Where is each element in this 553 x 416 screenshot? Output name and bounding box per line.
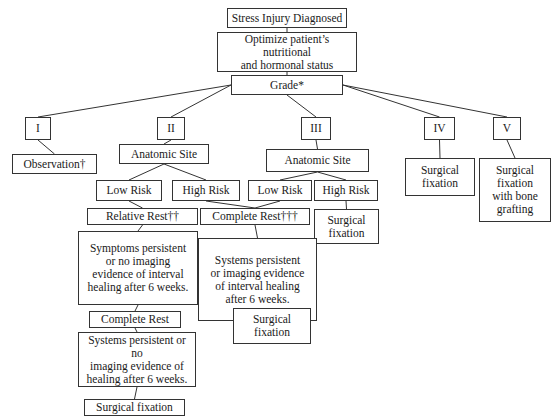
connector-anatomic_site_ii-high_risk_ii: [164, 164, 206, 180]
high-risk-ii-node: High Risk: [172, 180, 240, 201]
low-risk-ii-node: Low Risk: [96, 180, 162, 201]
surgical-fixation-bone-graft-node: Surgical fixation with bone grafting: [479, 158, 551, 222]
grade-iii-node: III: [301, 117, 331, 140]
surgical-fixation-mid-node: Surgical fixation: [233, 308, 311, 344]
connector-anatomic_site_iii-low_risk_iii: [280, 172, 318, 180]
treatment-flowchart: Stress Injury Diagnosed Optimize patient…: [0, 0, 553, 416]
connector-anatomic_site_iii-high_risk_iii: [318, 172, 347, 180]
surgical-fixation-high-risk-node: Surgical fixation: [314, 209, 379, 244]
grade-iv-node: IV: [424, 117, 455, 140]
grade-ii-node: II: [157, 117, 185, 140]
connector-grade_iv-surgical_fixation_iv: [440, 140, 441, 158]
connector-low_risk_ii-relative_rest: [129, 201, 143, 208]
anatomic-site-iii-node: Anatomic Site: [266, 149, 369, 172]
connector-grade-grade_iii: [287, 95, 316, 117]
connector-grade_i-observation: [38, 140, 55, 154]
grade-node: Grade*: [231, 75, 343, 95]
complete-rest-mid-node: Complete Rest†††: [200, 208, 310, 225]
stress-injury-diagnosed-node: Stress Injury Diagnosed: [227, 8, 347, 28]
connector-high_risk_ii-complete_rest_mid: [206, 201, 255, 208]
systems-persistent-left-node: Systems persistent or no imaging evidenc…: [78, 332, 196, 387]
relative-rest-node: Relative Rest††: [87, 208, 198, 225]
observation-node: Observation†: [12, 154, 97, 174]
connector-systems_persistent_left-surgical_fixation_left: [135, 387, 138, 399]
connector-low_risk_iii-complete_rest_mid: [255, 201, 280, 208]
connector-grade_v-surgical_fixation_v: [507, 140, 515, 158]
connector-grade_iii-anatomic_site_iii: [316, 140, 318, 149]
surgical-fixation-iv-node: Surgical fixation: [405, 158, 475, 196]
optimize-status-node: Optimize patient’s nutritional and hormo…: [217, 32, 357, 72]
complete-rest-left-node: Complete Rest: [89, 311, 181, 328]
connector-complete_rest_mid-systems_persistent_mid: [255, 225, 258, 238]
connector-anatomic_site_ii-low_risk_ii: [129, 164, 164, 180]
anatomic-site-ii-node: Anatomic Site: [119, 144, 209, 164]
low-risk-iii-node: Low Risk: [248, 180, 312, 201]
connector-high_risk_iii-surgical_fixation_high_iii: [346, 201, 347, 209]
symptoms-persistent-node: Symptoms persistent or no imaging eviden…: [78, 231, 198, 305]
grade-v-node: V: [493, 117, 521, 140]
grade-i-node: I: [25, 117, 51, 140]
high-risk-iii-node: High Risk: [314, 180, 378, 201]
surgical-fixation-left-node: Surgical fixation: [84, 399, 185, 416]
